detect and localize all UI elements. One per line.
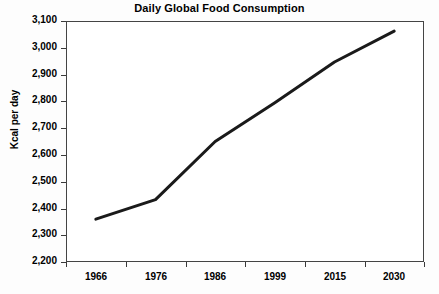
chart-title: Daily Global Food Consumption [0, 2, 439, 14]
y-axis-title: Kcal per day [9, 80, 20, 160]
x-tick-mark [66, 262, 67, 267]
y-tick-label: 3,000 [32, 41, 57, 52]
x-tick-label: 1986 [204, 271, 226, 282]
x-tick-mark [305, 262, 306, 267]
x-tick-label: 2030 [383, 271, 405, 282]
x-tick-mark [245, 262, 246, 267]
chart-container: Daily Global Food Consumption Kcal per d… [0, 0, 439, 294]
y-tick-label: 3,100 [32, 14, 57, 25]
y-tick-label: 2,200 [32, 255, 57, 266]
y-tick-label: 2,300 [32, 228, 57, 239]
y-tick-label: 2,600 [32, 148, 57, 159]
x-tick-mark [126, 262, 127, 267]
x-tick-label: 1976 [145, 271, 167, 282]
x-tick-label: 2015 [324, 271, 346, 282]
y-tick-label: 2,800 [32, 94, 57, 105]
x-tick-mark [365, 262, 366, 267]
y-tick-label: 2,900 [32, 68, 57, 79]
y-tick-label: 2,700 [32, 121, 57, 132]
y-tick-label: 2,500 [32, 175, 57, 186]
x-tick-label: 1966 [85, 271, 107, 282]
plot-area [66, 21, 424, 262]
y-tick-label: 2,400 [32, 202, 57, 213]
x-tick-mark [186, 262, 187, 267]
x-tick-mark [424, 262, 425, 267]
x-tick-label: 1999 [264, 271, 286, 282]
